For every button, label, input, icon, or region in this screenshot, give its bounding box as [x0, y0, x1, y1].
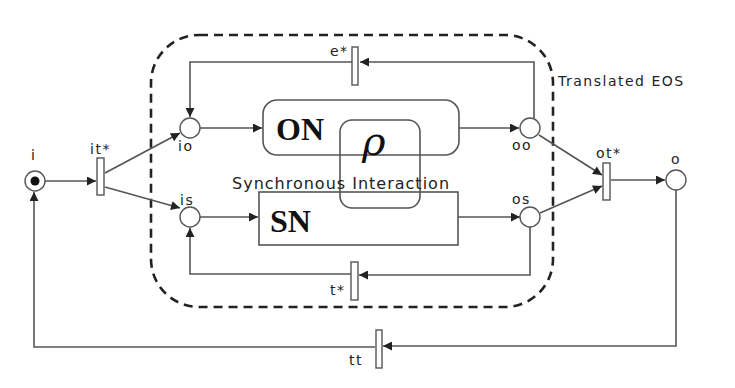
arc-os-t — [359, 227, 530, 275]
transition-t-label: t* — [330, 282, 346, 298]
transition-tt[interactable] — [376, 330, 382, 368]
arc-e-io — [190, 62, 352, 117]
place-oo[interactable] — [520, 118, 540, 138]
arc-it-is — [105, 187, 180, 208]
arc-it-io — [105, 133, 180, 173]
transition-it-label: it* — [90, 141, 111, 157]
translated-eos-label: Translated EOS — [557, 73, 685, 89]
place-i[interactable] — [25, 171, 45, 191]
place-is[interactable] — [180, 207, 200, 227]
place-o-label: o — [671, 151, 681, 167]
arc-oo-ot — [539, 135, 602, 175]
on-net-label: ON — [276, 111, 324, 147]
place-is-label: is — [180, 192, 194, 208]
place-o[interactable] — [666, 170, 686, 190]
transition-tt-label: tt — [349, 352, 363, 368]
arc-tt-i — [34, 192, 375, 347]
place-io-label: io — [178, 138, 193, 154]
place-io[interactable] — [180, 118, 200, 138]
transition-ot[interactable] — [603, 163, 610, 200]
synchronous-interaction-label: Synchronous Interaction — [232, 174, 450, 193]
sn-net-label: SN — [270, 203, 311, 239]
place-oo-label: oo — [512, 137, 532, 153]
transition-it[interactable] — [97, 158, 104, 195]
petri-net-diagram: ON SN ρ Synchronous Interaction Translat… — [0, 0, 735, 388]
transition-ot-label: ot* — [596, 145, 622, 161]
transition-e-label: e* — [330, 43, 349, 59]
place-os-label: os — [512, 191, 531, 207]
transition-t[interactable] — [351, 262, 358, 300]
token-dot — [31, 177, 40, 186]
rho-symbol: ρ — [361, 118, 386, 164]
transition-e[interactable] — [352, 47, 358, 85]
arc-oo-e — [360, 62, 534, 118]
place-i-label: i — [31, 147, 36, 163]
arc-os-ot — [540, 186, 602, 213]
place-os[interactable] — [520, 207, 540, 227]
